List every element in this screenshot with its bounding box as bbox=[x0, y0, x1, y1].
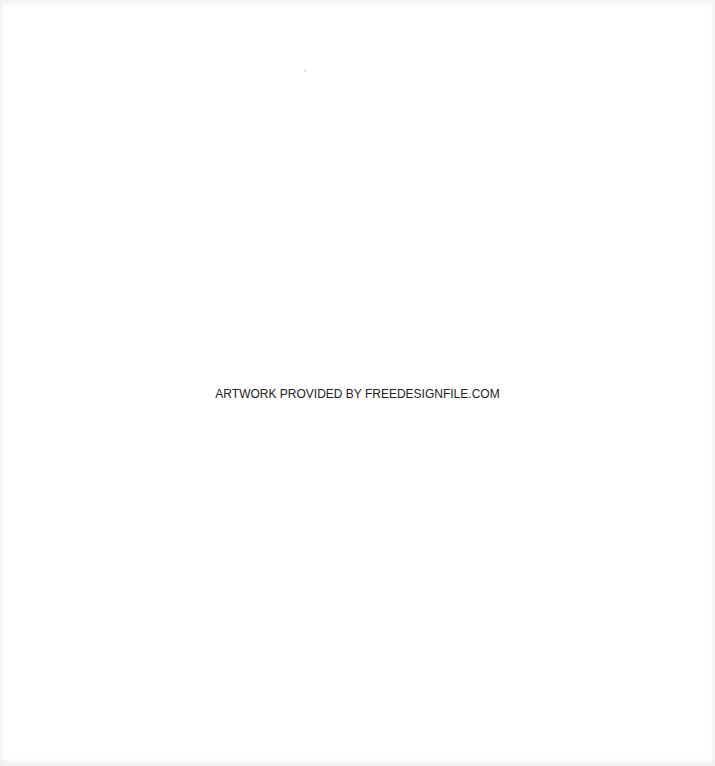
bottom-edge-shading bbox=[0, 758, 715, 766]
artwork-canvas: ARTWORK PROVIDED BY FREEDESIGNFILE.COM bbox=[0, 0, 715, 766]
right-edge-shading bbox=[711, 0, 715, 766]
artwork-credit-text: ARTWORK PROVIDED BY FREEDESIGNFILE.COM bbox=[0, 386, 715, 402]
left-edge-shading bbox=[0, 0, 4, 766]
top-edge-shading bbox=[0, 0, 715, 6]
decorative-speck bbox=[304, 70, 306, 72]
